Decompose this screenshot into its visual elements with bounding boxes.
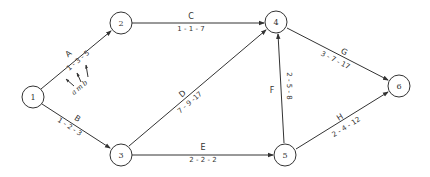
edge-h-label: H <box>335 112 345 123</box>
edge-e-label: E <box>200 143 205 152</box>
edge-f: F 2 - 5 - 8 <box>270 34 293 143</box>
node-5-label: 5 <box>282 151 287 160</box>
edge-c-label: C <box>188 12 194 21</box>
node-1: 1 <box>22 86 44 108</box>
edge-h-estimates: 2 - 4 - 12 <box>331 115 362 139</box>
edge-c: C 1 - 1 - 7 <box>132 12 264 33</box>
node-4-label: 4 <box>273 18 278 27</box>
node-1-label: 1 <box>30 93 35 102</box>
node-2-label: 2 <box>118 19 123 28</box>
node-2: 2 <box>110 12 132 34</box>
edge-b: B 1 - 2 - 3 <box>42 104 110 148</box>
node-3: 3 <box>110 144 132 166</box>
edge-b-label: B <box>73 113 83 124</box>
node-6: 6 <box>388 75 410 97</box>
edge-a: A 1 - 3 - 5 <box>41 31 111 89</box>
node-5: 5 <box>274 144 296 166</box>
node-6-label: 6 <box>396 82 401 91</box>
pert-network-diagram: A 1 - 3 - 5 a m b B 1 - 2 - 3 C 1 - 1 - … <box>0 0 430 177</box>
edge-f-estimates: 2 - 5 - 8 <box>285 72 293 99</box>
edge-g: G 3 - 7 - 17 <box>287 28 388 80</box>
edge-d: D 7 - 9 -17 <box>129 30 266 146</box>
edge-h: H 2 - 4 - 12 <box>296 92 388 149</box>
edge-e: E 2 - 2 - 2 <box>132 143 273 164</box>
edge-e-estimates: 2 - 2 - 2 <box>189 156 216 164</box>
edge-c-estimates: 1 - 1 - 7 <box>177 25 204 33</box>
node-4: 4 <box>265 11 287 33</box>
node-3-label: 3 <box>118 151 123 160</box>
edge-a-label: A <box>64 48 74 59</box>
edge-f-label: F <box>270 86 275 95</box>
